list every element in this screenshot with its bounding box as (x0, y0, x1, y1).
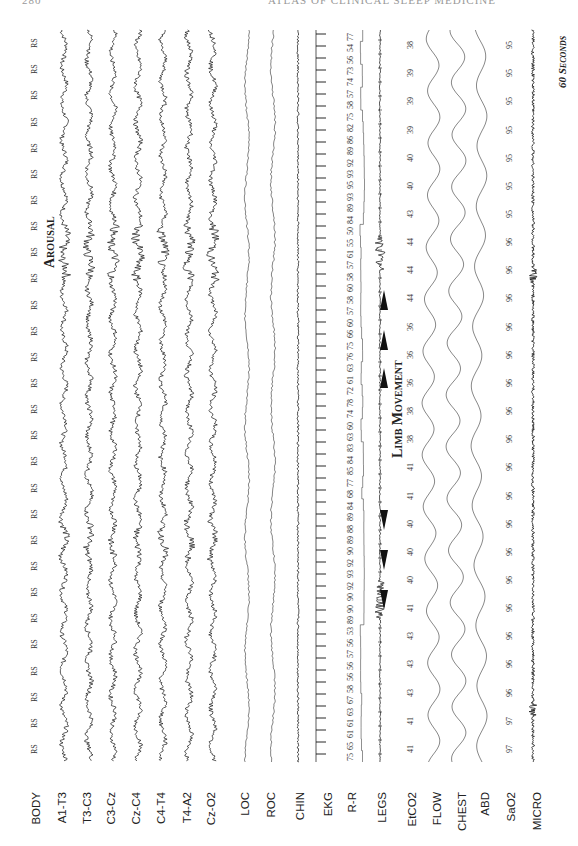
sao2-value: 97 (505, 745, 514, 753)
arrowhead-icon (380, 290, 388, 310)
sao2-value: 96 (505, 604, 514, 612)
rr-value: 54 (346, 44, 355, 52)
body-position-label: RS (30, 457, 39, 467)
body-position-label: RS (30, 221, 39, 231)
etco2-value: 40 (406, 520, 415, 528)
body-position-label: RS (30, 430, 39, 440)
sao2-value: 96 (505, 351, 514, 359)
sao2-value: 95 (505, 210, 514, 218)
rr-value: 56 (346, 673, 355, 681)
rr-value: 75 (346, 753, 355, 761)
rr-value: 55 (346, 239, 355, 247)
rr-value: 63 (346, 364, 355, 372)
channel-label: EtCO2 (405, 792, 419, 846)
rr-value: 89 (346, 147, 355, 155)
body-position-label: RS (30, 404, 39, 414)
channel-label: SaO2 (504, 792, 518, 846)
rr-value: 63 (346, 433, 355, 441)
sao2-value: 95 (505, 41, 514, 49)
channel-label: C4-T4 (154, 792, 168, 846)
rr-value: 68 (346, 490, 355, 498)
body-position-label: RS (30, 483, 39, 493)
rr-value: 57 (346, 307, 355, 315)
sao2-value: 96 (505, 379, 514, 387)
sao2-value: 96 (505, 660, 514, 668)
rr-value: 60 (346, 422, 355, 430)
channel-label: FLOW (430, 792, 444, 846)
rr-value: 84 (346, 502, 355, 510)
limb-movement-annotation: Limb Movement (390, 360, 406, 458)
rr-value: 53 (346, 627, 355, 635)
rr-value: 56 (346, 56, 355, 64)
rr-value: 78 (346, 399, 355, 407)
channel-label: CHEST (455, 792, 469, 846)
channel-label: T4-A2 (180, 792, 194, 846)
etco2-value: 41 (406, 604, 415, 612)
arrowhead-icon (380, 368, 388, 388)
etco2-value: 43 (406, 210, 415, 218)
sao2-value: 96 (505, 689, 514, 697)
body-position-label: RS (30, 169, 39, 179)
rr-value: 95 (346, 181, 355, 189)
rr-value: 84 (346, 456, 355, 464)
rr-value: 77 (346, 33, 355, 41)
rr-value: 82 (346, 124, 355, 132)
sao2-value: 96 (505, 632, 514, 640)
etco2-value: 40 (406, 576, 415, 584)
body-position-label: RS (30, 352, 39, 362)
etco2-value: 39 (406, 126, 415, 134)
rr-value: 57 (346, 261, 355, 269)
rr-value: 83 (346, 444, 355, 452)
sao2-value: 96 (505, 294, 514, 302)
etco2-value: 38 (406, 435, 415, 443)
etco2-value: 38 (406, 407, 415, 415)
etco2-value: 44 (406, 238, 415, 246)
sao2-value: 96 (505, 576, 514, 584)
rr-value: 58 (346, 273, 355, 281)
body-position-label: RS (30, 640, 39, 650)
rr-value: 57 (346, 90, 355, 98)
rr-value: 60 (346, 284, 355, 292)
body-position-label: RS (30, 91, 39, 101)
sao2-value: 96 (505, 520, 514, 528)
arrowhead-icon (380, 550, 388, 570)
rr-value: 90 (346, 547, 355, 555)
rr-value: 65 (346, 742, 355, 750)
etco2-value: 41 (406, 463, 415, 471)
rr-value: 61 (346, 250, 355, 258)
rr-value: 93 (346, 193, 355, 201)
channel-label: EKG (321, 792, 335, 846)
body-position-label: RS (30, 117, 39, 127)
rr-value: 61 (346, 376, 355, 384)
arrowhead-icon (380, 510, 388, 530)
arrowhead-icon (380, 330, 388, 350)
rr-value: 57 (346, 650, 355, 658)
sao2-value: 95 (505, 154, 514, 162)
sao2-value: 96 (505, 492, 514, 500)
body-position-label: RS (30, 744, 39, 754)
body-position-label: RS (30, 195, 39, 205)
rr-value: 92 (346, 582, 355, 590)
etco2-value: 36 (406, 351, 415, 359)
body-position-label: RS (30, 613, 39, 623)
rr-value: 89 (346, 204, 355, 212)
rr-value: 85 (346, 467, 355, 475)
sao2-value: 97 (505, 717, 514, 725)
rr-value: 58 (346, 685, 355, 693)
etco2-value: 41 (406, 492, 415, 500)
channel-label: T3-C3 (80, 792, 94, 846)
etco2-value: 43 (406, 632, 415, 640)
rr-value: 50 (346, 227, 355, 235)
etco2-value: 36 (406, 379, 415, 387)
rr-value: 77 (346, 479, 355, 487)
etco2-value: 39 (406, 97, 415, 105)
etco2-value: 36 (406, 323, 415, 331)
body-position-label: RS (30, 718, 39, 728)
body-position-label: RS (30, 326, 39, 336)
rr-value: 58 (346, 296, 355, 304)
rr-value: 61 (346, 730, 355, 738)
body-position-label: RS (30, 300, 39, 310)
rr-value: 56 (346, 639, 355, 647)
etco2-value: 43 (406, 660, 415, 668)
body-position-label: RS (30, 143, 39, 153)
